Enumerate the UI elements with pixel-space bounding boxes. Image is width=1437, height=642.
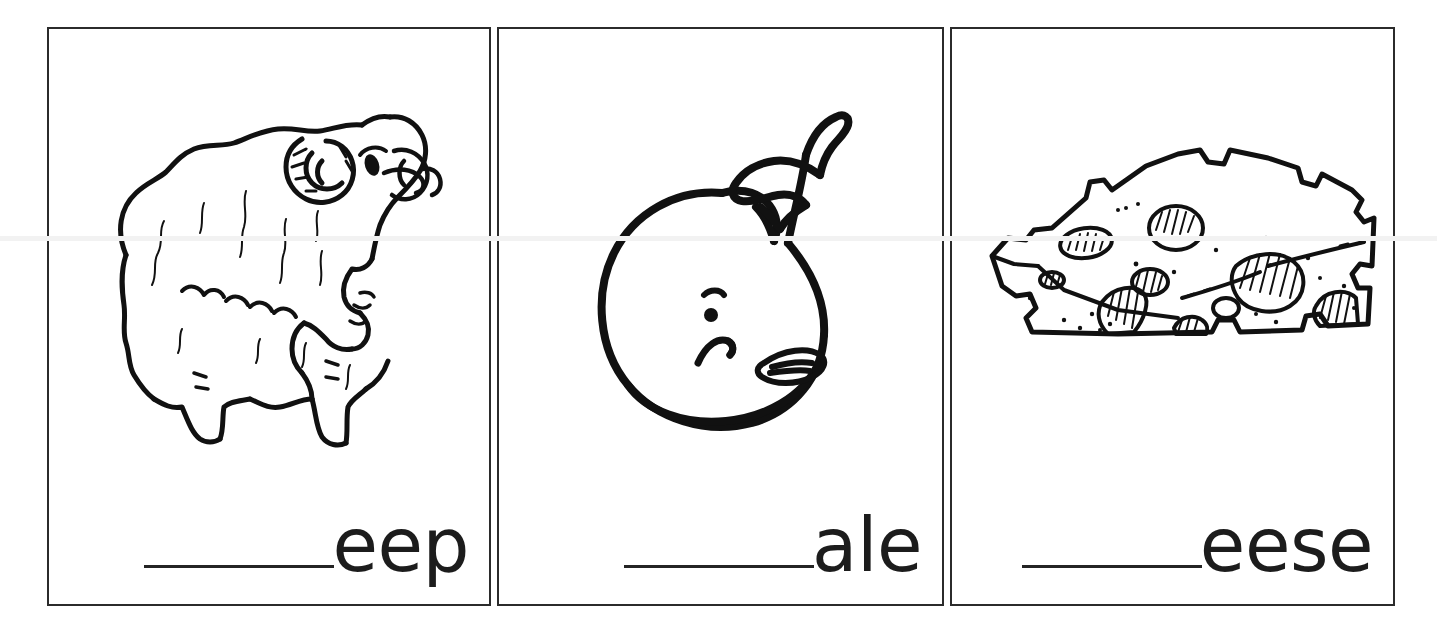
answer-area: eese bbox=[952, 496, 1393, 604]
blank-write-line[interactable] bbox=[624, 565, 814, 568]
panel-row: eep bbox=[47, 27, 1395, 606]
panel-artwork-area bbox=[499, 29, 942, 496]
answer-area: ale bbox=[499, 496, 942, 604]
sheep-illustration bbox=[54, 43, 484, 483]
blank-write-line[interactable] bbox=[144, 565, 334, 568]
word-ending-text: eese bbox=[1200, 508, 1373, 582]
answer-line-sheep[interactable]: eep bbox=[144, 508, 469, 582]
picture-word-panel-whale[interactable]: ale bbox=[497, 27, 944, 606]
word-ending-text: ale bbox=[812, 508, 922, 582]
word-ending-text: eep bbox=[332, 508, 469, 582]
answer-area: eep bbox=[49, 496, 489, 604]
picture-word-panel-cheese[interactable]: eese bbox=[950, 27, 1395, 606]
answer-line-cheese[interactable]: eese bbox=[1022, 508, 1373, 582]
blank-write-line[interactable] bbox=[1022, 565, 1202, 568]
answer-line-whale[interactable]: ale bbox=[624, 508, 922, 582]
whale-illustration bbox=[556, 63, 886, 463]
cheese-illustration bbox=[968, 138, 1378, 388]
picture-word-panel-sheep[interactable]: eep bbox=[47, 27, 491, 606]
worksheet-page: eep bbox=[0, 0, 1437, 642]
panel-artwork-area bbox=[952, 29, 1393, 496]
panel-artwork-area bbox=[49, 29, 489, 496]
